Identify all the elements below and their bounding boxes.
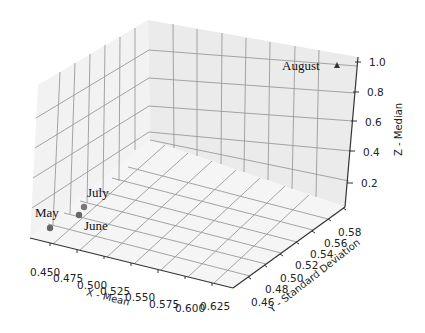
z-tick-labels: 1.0 0.8 0.6 0.4 0.2 <box>361 56 386 189</box>
z-tick-label: 0.2 <box>361 177 378 189</box>
x-tick-label: 0.625 <box>200 300 230 312</box>
point-may <box>47 225 53 231</box>
label-may: May <box>35 205 59 220</box>
z-axis-title: Z - Median <box>393 103 404 156</box>
z-tick-label: 0.4 <box>363 146 380 158</box>
point-july <box>81 204 87 210</box>
3d-scatter-chart: 0.450 0.475 0.500 0.525 0.550 0.575 0.60… <box>0 0 425 333</box>
label-july: July <box>87 185 109 200</box>
label-june: June <box>84 218 108 233</box>
label-august: August <box>282 58 320 73</box>
point-june <box>76 212 82 218</box>
z-tick-label: 0.8 <box>367 86 384 98</box>
y-tick-label: 0.58 <box>338 226 361 238</box>
z-tick-label: 1.0 <box>369 56 386 68</box>
z-tick-label: 0.6 <box>365 116 382 128</box>
